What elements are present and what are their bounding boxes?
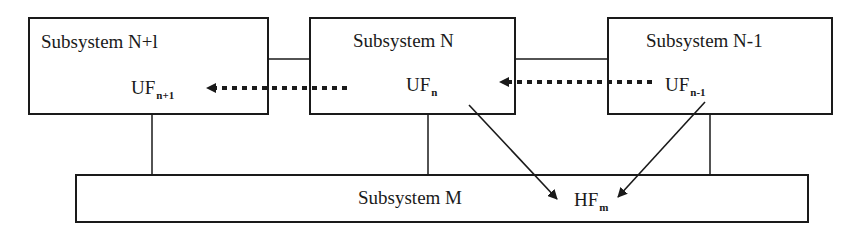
function-subscript: n+1: [156, 89, 174, 101]
function-ufn-plus-1: UFn+1: [131, 78, 174, 101]
function-subscript: m: [599, 201, 608, 213]
label-subsystem-n-minus-1: Subsystem N-1: [646, 31, 763, 50]
function-ufn-minus-1: UFn-1: [665, 75, 706, 98]
function-ufn: UFn: [406, 75, 437, 98]
function-subscript: n: [431, 86, 437, 98]
label-subsystem-n: Subsystem N: [353, 31, 454, 50]
label-subsystem-n-plus-1: Subsystem N+l: [41, 32, 158, 51]
arrowhead-icon: [499, 77, 509, 87]
function-base: UF: [406, 74, 430, 95]
function-hfm: HFm: [574, 190, 608, 213]
arrow-ufn-minus-1-to-hfm: [618, 102, 705, 197]
function-base: UF: [665, 74, 689, 95]
function-base: UF: [131, 77, 155, 98]
arrowhead-icon: [206, 83, 216, 93]
label-subsystem-m: Subsystem M: [358, 188, 462, 207]
function-subscript: n-1: [690, 86, 705, 98]
arrow-ufn-to-hfm: [469, 105, 557, 199]
function-base: HF: [574, 189, 598, 210]
